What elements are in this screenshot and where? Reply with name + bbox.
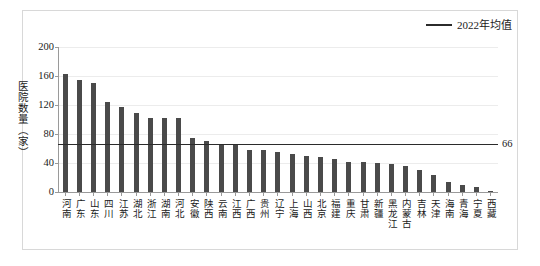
bar[interactable]	[290, 154, 295, 192]
average-reference-line	[58, 144, 498, 145]
bar[interactable]	[63, 74, 68, 192]
x-tick-slot	[413, 192, 427, 196]
bar[interactable]	[375, 163, 380, 192]
x-axis-label: 河南	[59, 199, 71, 247]
x-tick-mark	[192, 192, 193, 196]
bar[interactable]	[219, 144, 224, 192]
x-tick-mark	[405, 192, 406, 196]
bar-slot	[313, 47, 327, 192]
x-tick-slot	[86, 192, 100, 196]
bar[interactable]	[446, 182, 451, 192]
x-axis-label: 河北	[173, 199, 185, 247]
y-tick-label: 40	[44, 158, 55, 169]
legend: 2022年均值	[426, 18, 512, 32]
y-tick-label: 160	[38, 71, 54, 82]
y-tick-label: 80	[44, 129, 55, 140]
bar[interactable]	[91, 83, 96, 192]
x-tick-slot	[299, 192, 313, 196]
x-tick-mark	[121, 192, 122, 196]
bar-slot	[115, 47, 129, 192]
bar[interactable]	[417, 170, 422, 192]
x-tick-mark	[363, 192, 364, 196]
bar[interactable]	[162, 118, 167, 192]
x-axis-label: 浙江	[144, 199, 156, 247]
x-label-slot: 陕西	[200, 199, 214, 247]
bar[interactable]	[389, 164, 394, 192]
bar-slot	[413, 47, 427, 192]
bar[interactable]	[233, 144, 238, 192]
x-axis-label: 四川	[102, 199, 114, 247]
bar[interactable]	[318, 157, 323, 192]
x-axis-label: 湖南	[159, 199, 171, 247]
x-axis-label: 内蒙古	[400, 199, 412, 247]
x-axis-label: 海南	[442, 199, 454, 247]
bar-slot	[228, 47, 242, 192]
x-tick-mark	[235, 192, 236, 196]
x-tick-slot	[370, 192, 384, 196]
x-label-slot: 青海	[455, 199, 469, 247]
x-axis-label: 黑龙江	[386, 199, 398, 247]
bar-slot	[399, 47, 413, 192]
x-tick-mark	[164, 192, 165, 196]
bar[interactable]	[261, 150, 266, 192]
x-label-slot: 西藏	[484, 199, 498, 247]
bar-slot	[186, 47, 200, 192]
x-axis-label: 陕西	[201, 199, 213, 247]
bar[interactable]	[119, 107, 124, 192]
x-label-slot: 天津	[427, 199, 441, 247]
bar-slot	[469, 47, 483, 192]
x-tick-slot	[72, 192, 86, 196]
x-tick-mark	[221, 192, 222, 196]
bar[interactable]	[346, 162, 351, 192]
bar[interactable]	[190, 138, 195, 192]
bar[interactable]	[275, 152, 280, 192]
bar-slot	[257, 47, 271, 192]
x-label-slot: 云南	[214, 199, 228, 247]
x-tick-slot	[356, 192, 370, 196]
x-axis-label: 广东	[74, 199, 86, 247]
bar-series	[58, 47, 498, 192]
x-label-slot: 湖南	[157, 199, 171, 247]
x-tick-slot	[101, 192, 115, 196]
bar[interactable]	[403, 166, 408, 192]
x-tick-slot	[129, 192, 143, 196]
bar-slot	[129, 47, 143, 192]
bar-slot	[86, 47, 100, 192]
x-label-slot: 宁夏	[469, 199, 483, 247]
bar[interactable]	[332, 159, 337, 192]
bar-slot	[342, 47, 356, 192]
bar[interactable]	[431, 175, 436, 192]
x-label-slot: 湖北	[129, 199, 143, 247]
bar[interactable]	[304, 156, 309, 192]
x-axis-label: 西藏	[485, 199, 497, 247]
bar[interactable]	[105, 102, 110, 192]
bar-slot	[143, 47, 157, 192]
x-axis-label: 新疆	[371, 199, 383, 247]
bar[interactable]	[361, 162, 366, 192]
bar-slot	[455, 47, 469, 192]
legend-line-marker-icon	[426, 24, 452, 26]
bar-slot	[101, 47, 115, 192]
x-tick-slot	[257, 192, 271, 196]
bar[interactable]	[77, 80, 82, 192]
x-tick-slot	[271, 192, 285, 196]
x-tick-slot	[427, 192, 441, 196]
bar[interactable]	[176, 118, 181, 192]
bar-slot	[72, 47, 86, 192]
bar-slot	[200, 47, 214, 192]
x-tick-mark	[150, 192, 151, 196]
bar[interactable]	[247, 150, 252, 192]
bar[interactable]	[204, 141, 209, 192]
bar[interactable]	[148, 118, 153, 192]
x-label-slot: 浙江	[143, 199, 157, 247]
bar[interactable]	[134, 113, 139, 192]
x-label-slot: 上海	[285, 199, 299, 247]
x-axis-label: 湖北	[130, 199, 142, 247]
x-tick-mark	[476, 192, 477, 196]
x-label-slot: 江苏	[115, 199, 129, 247]
x-tick-slot	[328, 192, 342, 196]
x-tick-slot	[399, 192, 413, 196]
x-label-slot: 广东	[72, 199, 86, 247]
x-label-slot: 重庆	[342, 199, 356, 247]
x-tick-mark	[249, 192, 250, 196]
